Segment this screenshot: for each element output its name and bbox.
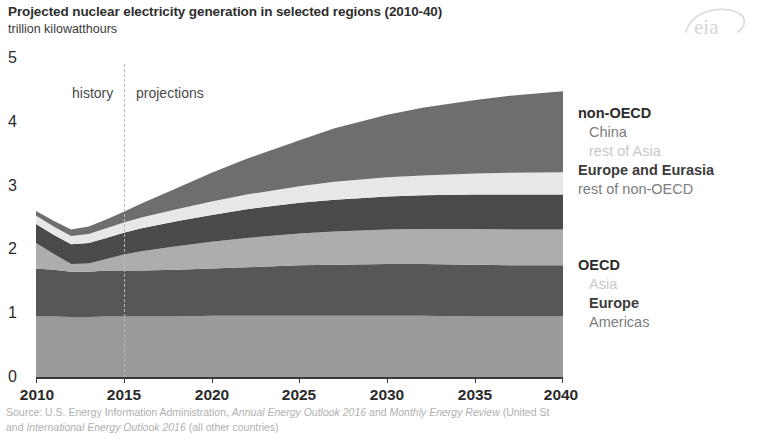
y-axis-tick-5: 5 <box>8 50 30 66</box>
x-axis-tick-2040: 2040 <box>544 386 578 404</box>
history-projection-divider <box>124 64 125 377</box>
legend-group-non-oecd: non-OECD China rest of Asia Europe and E… <box>578 104 766 199</box>
x-axis-tick-2030: 2030 <box>370 386 404 404</box>
source-text: Source: U.S. Energy Information Administ… <box>6 406 232 418</box>
x-axis-tick-2025: 2025 <box>282 386 316 404</box>
source-note-line-2: and International Energy Outlook 2016 (a… <box>6 420 766 435</box>
svg-text:eia: eia <box>694 15 719 39</box>
x-axis-tick-2010: 2010 <box>20 386 54 404</box>
chart-plot-area <box>36 58 563 377</box>
legend-group-oecd: OECD Asia Europe Americas <box>578 256 766 332</box>
legend-item-rest-of-asia: rest of Asia <box>589 142 766 161</box>
x-tick-mark <box>562 377 563 383</box>
source-note: Source: U.S. Energy Information Administ… <box>6 405 766 434</box>
x-axis-tick-2035: 2035 <box>458 386 492 404</box>
legend-heading-non-oecd: non-OECD <box>578 104 766 123</box>
projections-label: projections <box>136 85 204 101</box>
source-title-mer: Monthly Energy Review <box>389 406 499 418</box>
y-axis-tick-1: 1 <box>8 305 30 321</box>
x-tick-mark <box>475 377 476 383</box>
source-title-ieo: International Energy Outlook 2016 <box>26 421 185 433</box>
legend-heading-oecd: OECD <box>578 256 766 275</box>
stacked-area-svg <box>36 58 563 377</box>
legend-item-china: China <box>589 123 766 142</box>
x-axis-tick-2020: 2020 <box>195 386 229 404</box>
source-text: and <box>6 421 26 433</box>
x-tick-mark <box>299 377 300 383</box>
x-tick-mark <box>36 377 37 383</box>
y-axis-tick-0: 0 <box>8 369 30 385</box>
area-series-oecd-europe <box>36 264 563 317</box>
x-tick-mark <box>387 377 388 383</box>
y-axis-tick-4: 4 <box>8 114 30 130</box>
eia-logo: eia <box>666 2 750 42</box>
source-text: and <box>366 406 389 418</box>
area-series-oecd-americas <box>36 316 563 377</box>
legend-item-oecd-europe: Europe <box>589 294 766 313</box>
history-label: history <box>72 85 113 101</box>
legend-item-europe-and-eurasia: Europe and Eurasia <box>578 161 766 180</box>
legend-item-oecd-asia: Asia <box>589 275 766 294</box>
x-axis-tick-2015: 2015 <box>107 386 141 404</box>
y-axis-tick-3: 3 <box>8 178 30 194</box>
source-note-line-1: Source: U.S. Energy Information Administ… <box>6 405 766 420</box>
y-axis-tick-2: 2 <box>8 241 30 257</box>
chart-subtitle: trillion kilowatthours <box>8 22 117 36</box>
page-title: Projected nuclear electricity generation… <box>8 4 442 19</box>
source-text: (United St <box>500 406 550 418</box>
source-text: (all other countries) <box>186 421 279 433</box>
source-title-aeo: Annual Energy Outlook 2016 <box>232 406 366 418</box>
x-tick-mark <box>212 377 213 383</box>
x-tick-mark <box>124 377 125 383</box>
legend-item-oecd-americas: Americas <box>589 313 766 332</box>
legend-item-rest-of-non-oecd: rest of non-OECD <box>578 180 766 199</box>
